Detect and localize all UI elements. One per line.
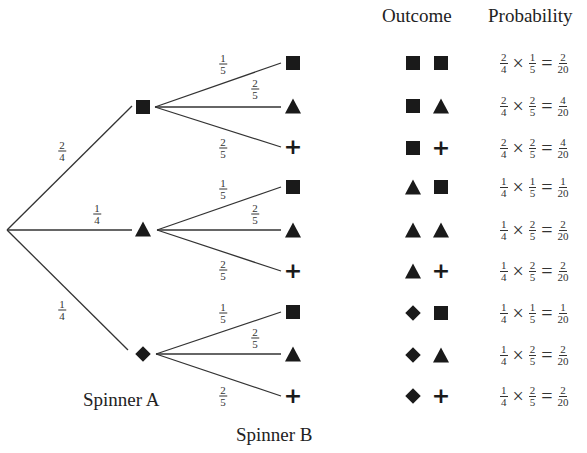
plus-icon: + — [432, 260, 450, 282]
times-sign: × — [511, 137, 526, 160]
probability-expression: 14×15=120 — [500, 172, 569, 202]
outcome-row: 14×25=220 — [0, 340, 587, 370]
outcome-first — [406, 56, 420, 70]
equals-sign: = — [539, 52, 554, 75]
fraction: 14 — [500, 176, 508, 199]
diamond-icon — [405, 388, 421, 404]
fraction: 25 — [529, 137, 537, 160]
outcome-header: Outcome — [382, 5, 452, 27]
plus-icon: + — [432, 385, 450, 407]
times-sign: × — [511, 95, 526, 118]
equals-sign: = — [539, 219, 554, 242]
equals-sign: = — [539, 385, 554, 408]
fraction: 120 — [558, 176, 569, 199]
outcome-row: 14×15=120 — [0, 172, 587, 202]
outcome-row: 24×25=420 — [0, 91, 587, 121]
triangle-icon — [433, 99, 449, 114]
fraction: 25 — [529, 219, 537, 242]
outcome-first — [405, 223, 421, 238]
outcome-second — [434, 180, 448, 194]
fraction: 14 — [500, 219, 508, 242]
times-sign: × — [511, 176, 526, 199]
diamond-icon — [405, 305, 421, 321]
outcome-second: + — [432, 260, 450, 282]
probability-expression: 24×15=220 — [500, 48, 569, 78]
equals-sign: = — [539, 302, 554, 325]
outcome-row: 14×15=120 — [0, 298, 587, 328]
probability-expression: 14×25=220 — [500, 340, 569, 370]
fraction: 120 — [558, 302, 569, 325]
outcome-second — [433, 99, 449, 114]
equals-sign: = — [539, 344, 554, 367]
plus-icon: + — [432, 137, 450, 159]
fraction: 24 — [500, 52, 508, 75]
outcome-second — [434, 306, 448, 320]
times-sign: × — [511, 385, 526, 408]
fraction: 15 — [529, 302, 537, 325]
probability-expression: 24×25=420 — [500, 91, 569, 121]
fraction: 24 — [500, 95, 508, 118]
square-icon — [406, 99, 420, 113]
fraction: 220 — [558, 219, 569, 242]
triangle-icon — [433, 223, 449, 238]
equals-sign: = — [539, 137, 554, 160]
triangle-icon — [433, 348, 449, 363]
probability-expression: 14×25=220 — [500, 256, 569, 286]
fraction: 14 — [500, 302, 508, 325]
square-icon — [434, 180, 448, 194]
fraction: 14 — [500, 260, 508, 283]
square-icon — [434, 306, 448, 320]
outcome-row: +14×25=220 — [0, 381, 587, 411]
fraction: 15 — [529, 176, 537, 199]
outcome-first — [406, 141, 420, 155]
equals-sign: = — [539, 95, 554, 118]
fraction: 420 — [558, 137, 569, 160]
fraction: 14 — [500, 344, 508, 367]
outcome-second — [434, 56, 448, 70]
outcome-row: 14×25=220 — [0, 215, 587, 245]
fraction: 420 — [558, 95, 569, 118]
fraction: 25 — [529, 260, 537, 283]
outcome-second — [433, 348, 449, 363]
fraction: 15 — [529, 52, 537, 75]
outcome-row: +24×25=420 — [0, 133, 587, 163]
fraction: 220 — [558, 344, 569, 367]
times-sign: × — [511, 344, 526, 367]
outcome-row: 24×15=220 — [0, 48, 587, 78]
fraction: 220 — [558, 260, 569, 283]
equals-sign: = — [539, 176, 554, 199]
outcome-row: +14×25=220 — [0, 256, 587, 286]
fraction: 25 — [529, 385, 537, 408]
probability-expression: 24×25=420 — [500, 133, 569, 163]
outcome-first — [405, 180, 421, 195]
spinner-b-label: Spinner B — [236, 424, 313, 446]
triangle-icon — [405, 264, 421, 279]
diamond-icon — [405, 347, 421, 363]
times-sign: × — [511, 260, 526, 283]
fraction: 25 — [529, 95, 537, 118]
times-sign: × — [511, 302, 526, 325]
times-sign: × — [511, 52, 526, 75]
triangle-icon — [405, 223, 421, 238]
outcome-second: + — [432, 385, 450, 407]
fraction: 220 — [558, 385, 569, 408]
probability-header: Probability — [488, 5, 572, 27]
probability-expression: 14×25=220 — [500, 381, 569, 411]
fraction: 14 — [500, 385, 508, 408]
outcome-second: + — [432, 137, 450, 159]
fraction: 220 — [558, 52, 569, 75]
fraction: 25 — [529, 344, 537, 367]
square-icon — [434, 56, 448, 70]
probability-expression: 14×15=120 — [500, 298, 569, 328]
square-icon — [406, 56, 420, 70]
square-icon — [406, 141, 420, 155]
outcome-first — [406, 99, 420, 113]
times-sign: × — [511, 219, 526, 242]
probability-expression: 14×25=220 — [500, 215, 569, 245]
outcome-first — [405, 264, 421, 279]
outcome-second — [433, 223, 449, 238]
fraction: 24 — [500, 137, 508, 160]
equals-sign: = — [539, 260, 554, 283]
triangle-icon — [405, 180, 421, 195]
